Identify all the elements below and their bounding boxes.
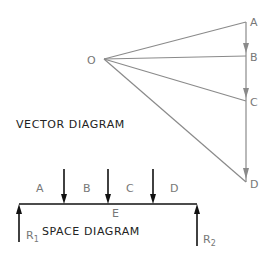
reaction-arrowhead-r2 [194,204,200,214]
diagram-canvas: O A B C D VECTOR DIAGRAM A B C D E R1 R2… [0,0,275,256]
arrowhead-cd [243,168,249,179]
ray-oc [104,59,246,101]
vector-diagram-title: VECTOR DIAGRAM [16,118,125,131]
point-label-d: D [250,178,258,191]
point-label-c: C [250,96,258,109]
beam-label-e: E [112,207,119,220]
reaction-label-r1: R1 [26,229,39,244]
arrowhead-bc [243,88,249,98]
ray-ob [104,56,246,59]
space-label-d: D [170,182,178,195]
ray-oa [104,22,246,59]
load-arrowhead-bc [105,194,111,204]
space-label-a: A [36,182,44,195]
point-label-a: A [250,16,258,29]
ray-od [104,59,246,182]
arrowhead-ab [243,43,249,53]
space-label-b: B [83,182,91,195]
space-diagram-title: SPACE DIAGRAM [42,225,140,238]
reaction-arrowhead-r1 [16,204,22,214]
load-arrowhead-cd [150,194,156,204]
reaction-label-r2: R2 [203,233,216,248]
vector-diagram [104,22,249,182]
point-label-b: B [250,51,258,64]
load-arrowhead-ab [61,194,67,204]
pole-label: O [87,54,96,67]
space-label-c: C [126,182,134,195]
